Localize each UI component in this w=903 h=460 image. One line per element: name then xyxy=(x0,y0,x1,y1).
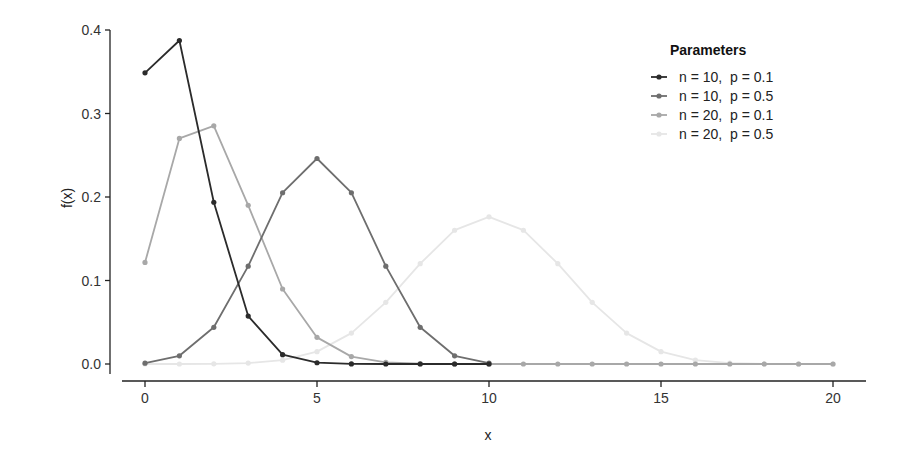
x-tick-label: 15 xyxy=(653,390,669,406)
data-point xyxy=(280,286,285,291)
data-point xyxy=(314,360,319,365)
legend-title: Parameters xyxy=(670,42,746,58)
legend-label: n = 10, p = 0.1 xyxy=(679,69,773,85)
data-point xyxy=(280,190,285,195)
x-tick-label: 0 xyxy=(141,390,149,406)
data-point xyxy=(246,313,251,318)
x-axis-label: x xyxy=(485,427,492,443)
data-point xyxy=(349,190,354,195)
series-line xyxy=(142,38,491,367)
data-point xyxy=(590,300,595,305)
binomial-pmf-chart: 0.00.10.20.30.4 05101520 f(x) x Paramete… xyxy=(0,0,903,460)
data-point xyxy=(177,38,182,43)
data-point xyxy=(452,228,457,233)
data-point xyxy=(658,361,663,366)
y-tick-label: 0.2 xyxy=(82,189,102,205)
data-point xyxy=(658,349,663,354)
x-axis: 05101520 xyxy=(122,381,866,406)
data-point xyxy=(418,361,423,366)
data-point xyxy=(555,361,560,366)
data-point xyxy=(211,200,216,205)
y-tick-label: 0.0 xyxy=(82,356,102,372)
x-tick-label: 10 xyxy=(481,390,497,406)
data-point xyxy=(830,361,835,366)
legend-label: n = 20, p = 0.5 xyxy=(679,126,773,142)
data-point xyxy=(624,331,629,336)
data-point xyxy=(142,70,147,75)
data-point xyxy=(314,349,319,354)
y-tick-label: 0.1 xyxy=(82,273,102,289)
series-line xyxy=(142,214,835,366)
legend-item: n = 20, p = 0.5 xyxy=(651,126,773,142)
data-point xyxy=(211,123,216,128)
x-tick-label: 5 xyxy=(313,390,321,406)
data-point xyxy=(246,264,251,269)
y-axis: 0.00.10.20.30.4 xyxy=(82,22,110,374)
data-point xyxy=(521,361,526,366)
data-point xyxy=(590,361,595,366)
data-point xyxy=(246,203,251,208)
data-point xyxy=(280,358,285,363)
legend-item: n = 10, p = 0.1 xyxy=(651,69,773,85)
data-point xyxy=(452,361,457,366)
data-point xyxy=(177,136,182,141)
data-point xyxy=(693,361,698,366)
data-point xyxy=(246,360,251,365)
data-point xyxy=(727,361,732,366)
data-point xyxy=(486,361,491,366)
y-tick-label: 0.3 xyxy=(82,106,102,122)
y-tick-label: 0.4 xyxy=(82,22,102,38)
data-point xyxy=(624,361,629,366)
legend-label: n = 20, p = 0.1 xyxy=(679,107,773,123)
data-point xyxy=(280,352,285,357)
data-point xyxy=(314,335,319,340)
data-point xyxy=(177,361,182,366)
series-line xyxy=(142,156,491,366)
data-point xyxy=(521,228,526,233)
legend-item: n = 10, p = 0.5 xyxy=(651,88,773,104)
data-point xyxy=(796,361,801,366)
data-point xyxy=(383,264,388,269)
x-tick-label: 20 xyxy=(825,390,841,406)
legend: Parameters n = 10, p = 0.1n = 10, p = 0.… xyxy=(651,42,773,142)
y-axis-label: f(x) xyxy=(59,188,75,208)
data-point xyxy=(452,353,457,358)
data-point xyxy=(314,156,319,161)
data-point xyxy=(349,331,354,336)
data-point xyxy=(486,214,491,219)
data-point xyxy=(762,361,767,366)
data-point xyxy=(418,261,423,266)
series-line xyxy=(142,123,835,366)
data-point xyxy=(142,361,147,366)
data-point xyxy=(555,261,560,266)
legend-item: n = 20, p = 0.1 xyxy=(651,107,773,123)
legend-label: n = 10, p = 0.5 xyxy=(679,88,773,104)
data-point xyxy=(211,361,216,366)
data-point xyxy=(349,361,354,366)
data-point xyxy=(418,325,423,330)
data-point xyxy=(349,354,354,359)
data-point xyxy=(142,260,147,265)
data-point xyxy=(211,325,216,330)
data-point xyxy=(383,300,388,305)
data-point xyxy=(177,353,182,358)
data-point xyxy=(383,361,388,366)
